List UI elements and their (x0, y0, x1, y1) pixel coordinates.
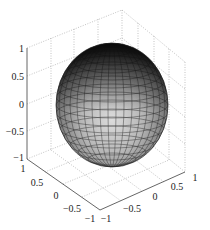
y-tick: −0.5 (63, 203, 81, 214)
sphere-surface (56, 43, 168, 167)
x-tick: 0 (153, 191, 158, 202)
x-tick-labels: −1 −0.5 0 0.5 1 (101, 172, 198, 224)
x-tick: 0.5 (171, 181, 184, 192)
z-tick: −0.5 (6, 126, 24, 137)
sphere-3d-plot: 1 0.5 0 −0.5 −1 1 0.5 0 −0.5 −1 −1 −0.5 … (0, 0, 210, 230)
z-tick: 1 (19, 43, 24, 54)
z-tick: 0.5 (12, 71, 25, 82)
x-tick: −1 (101, 213, 112, 224)
z-tick: −1 (13, 152, 24, 163)
y-tick: 1 (21, 163, 26, 174)
x-tick: −0.5 (123, 203, 141, 214)
z-tick: 0 (19, 99, 24, 110)
z-tick-labels: 1 0.5 0 −0.5 −1 (6, 43, 24, 163)
y-tick: −1 (85, 213, 96, 224)
x-tick: 1 (193, 172, 198, 183)
y-tick: 0.5 (31, 177, 44, 188)
y-tick-labels: 1 0.5 0 −0.5 −1 (21, 163, 96, 224)
y-tick: 0 (54, 190, 59, 201)
